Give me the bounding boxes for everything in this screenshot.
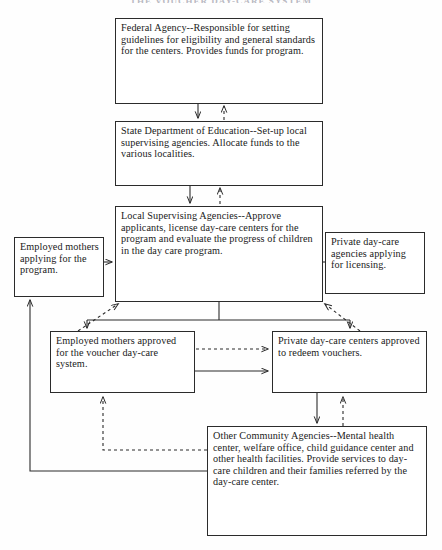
node-employed-mothers-approved: Employed mothers approved for the vouche… [50,331,195,393]
node-local-supervising-agencies: Local Supervising Agencies--Approve appl… [115,206,323,302]
flow-chart-diagram: THE VOUCHER DAY-CARE SYSTEM [0,0,442,550]
diagram-title: THE VOUCHER DAY-CARE SYSTEM [0,0,442,3]
node-state-department: State Department of Education--Set-up lo… [115,121,323,186]
node-employed-mothers-applying: Employed mothers applying for the progra… [14,237,104,297]
node-private-day-care-centers: Private day-care centers approved to red… [272,331,427,393]
edge-privatecenters-to-local [325,304,360,331]
node-federal-agency: Federal Agency--Responsible for setting … [115,18,323,104]
edge-empapproved-to-local [78,304,118,331]
edge-other-to-empapproved [103,397,207,450]
node-other-community-agencies: Other Community Agencies--Mental health … [207,426,427,536]
node-private-day-care-agencies: Private day-care agencies applying for l… [325,232,425,294]
